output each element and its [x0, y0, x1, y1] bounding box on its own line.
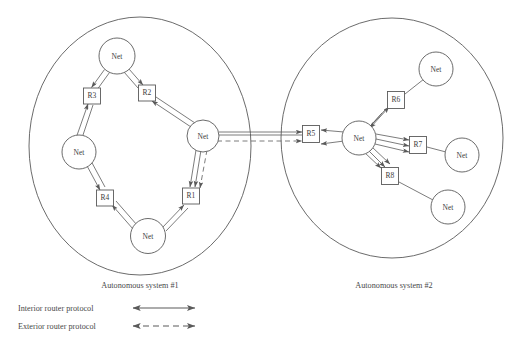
diagram-canvas: Net Net Net Net R3 R2 R4 R1: [0, 0, 508, 340]
net-node-label: Net: [354, 134, 366, 143]
net-node-label: Net: [431, 65, 443, 74]
inter-as-link: [217, 132, 302, 141]
net-node-top: Net: [99, 38, 135, 74]
router-r8: R8: [382, 168, 399, 185]
router-label: R3: [88, 91, 97, 100]
net-node-left: Net: [62, 135, 96, 169]
router-label: R5: [307, 129, 316, 138]
as1-caption: Autonomous system #1: [101, 281, 178, 290]
router-label: R7: [414, 140, 423, 149]
legend: Interior router protocol Exterior router…: [18, 304, 195, 331]
net-node-label: Net: [198, 132, 210, 141]
net-node-label: Net: [112, 52, 124, 61]
router-r3: R3: [84, 88, 101, 104]
legend-item-interior: Interior router protocol: [18, 304, 195, 313]
net-node-right: Net: [187, 120, 219, 152]
net-node-label: Net: [457, 151, 469, 160]
net-node-hub: Net: [342, 121, 376, 155]
net-node-lower-right: Net: [431, 190, 465, 224]
router-label: R1: [187, 191, 196, 200]
router-r5: R5: [303, 126, 320, 143]
as2-nodes: Net Net Net Net R5 R6 R7 R8: [303, 52, 480, 224]
router-r6: R6: [388, 92, 405, 109]
network-diagram: Net Net Net Net R3 R2 R4 R1: [0, 0, 508, 340]
legend-exterior-label: Exterior router protocol: [18, 322, 96, 331]
net-node-upper-right: Net: [419, 52, 453, 86]
router-r2: R2: [139, 85, 156, 101]
legend-item-exterior: Exterior router protocol: [18, 322, 195, 331]
router-label: R2: [143, 88, 152, 97]
router-r1: R1: [183, 188, 200, 204]
net-node-label: Net: [143, 232, 155, 241]
net-node-middle-right: Net: [445, 138, 479, 172]
router-label: R8: [386, 171, 395, 180]
net-node-bottom: Net: [131, 219, 166, 254]
legend-interior-label: Interior router protocol: [18, 304, 94, 313]
as2-caption: Autonomous system #2: [355, 281, 432, 290]
net-node-label: Net: [443, 203, 455, 212]
router-r7: R7: [410, 137, 427, 154]
net-node-label: Net: [74, 148, 86, 157]
router-label: R6: [392, 95, 401, 104]
as1-nodes: Net Net Net Net R3 R2 R4 R1: [62, 38, 219, 254]
router-label: R4: [101, 193, 110, 202]
router-r4: R4: [97, 190, 114, 206]
